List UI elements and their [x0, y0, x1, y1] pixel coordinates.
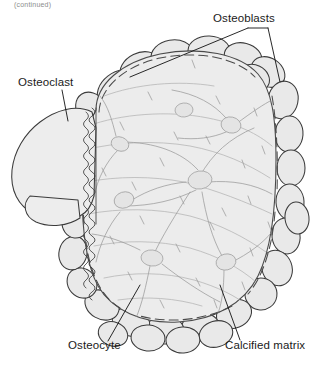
osteoblast-cell	[277, 150, 305, 186]
label-osteoblasts: Osteoblasts	[213, 12, 275, 24]
osteoclast-lobe	[25, 196, 80, 225]
figure-canvas: (continued)	[0, 0, 318, 368]
clipped-header-text: (continued)	[14, 1, 51, 9]
osteoblast-cell	[274, 115, 304, 153]
label-calcified-matrix: Calcified matrix	[225, 339, 305, 351]
calcified-matrix	[82, 51, 277, 322]
label-osteocyte: Osteocyte	[68, 339, 121, 351]
bone-histology-figure: (continued)	[0, 0, 318, 368]
label-osteoclast: Osteoclast	[18, 76, 74, 88]
